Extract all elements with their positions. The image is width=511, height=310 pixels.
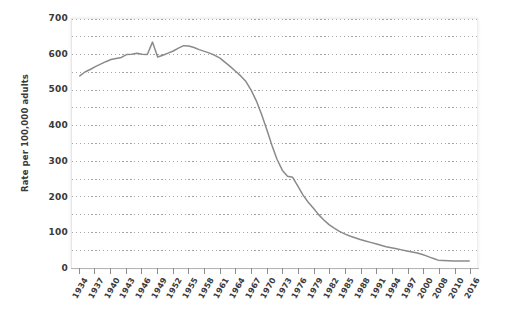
x-tick-mark <box>392 268 393 274</box>
x-tick-mark <box>282 268 283 274</box>
x-tick-mark <box>94 268 95 274</box>
x-tick-mark <box>455 268 456 274</box>
y-tick-label: 400 <box>49 120 68 130</box>
x-tick-mark <box>345 268 346 274</box>
x-tick-mark <box>126 268 127 274</box>
x-tick-mark <box>470 268 471 274</box>
x-tick-mark <box>329 268 330 274</box>
x-tick-mark <box>423 268 424 274</box>
x-tick-mark <box>314 268 315 274</box>
x-tick-mark <box>173 268 174 274</box>
x-tick-mark <box>141 268 142 274</box>
y-tick-label: 0 <box>62 263 68 273</box>
plot-area <box>71 18 478 268</box>
x-tick-mark <box>79 268 80 274</box>
y-tick-label: 200 <box>49 192 68 202</box>
x-tick-mark <box>376 268 377 274</box>
y-tick-label: 300 <box>49 156 68 166</box>
x-tick-mark <box>235 268 236 274</box>
x-tick-mark <box>408 268 409 274</box>
x-tick-mark <box>439 268 440 274</box>
y-axis-tick-labels: 7006005004003002001000 <box>28 0 68 310</box>
x-tick-mark <box>157 268 158 274</box>
line-chart: Rate per 100,000 adults 7006005004003002… <box>0 0 511 310</box>
x-axis-ticks <box>71 268 479 275</box>
x-tick-mark <box>267 268 268 274</box>
x-tick-mark <box>188 268 189 274</box>
x-axis-tick-labels: 1934193719401943194619491952195519581961… <box>71 276 479 310</box>
y-tick-label: 700 <box>49 13 68 23</box>
x-tick-mark <box>298 268 299 274</box>
x-tick-mark <box>220 268 221 274</box>
x-tick-mark <box>204 268 205 274</box>
y-tick-label: 100 <box>49 227 68 237</box>
x-tick-mark <box>251 268 252 274</box>
y-tick-label: 500 <box>49 84 68 94</box>
y-tick-label: 600 <box>49 49 68 59</box>
data-series-line <box>72 19 477 268</box>
x-tick-mark <box>361 268 362 274</box>
x-tick-mark <box>110 268 111 274</box>
